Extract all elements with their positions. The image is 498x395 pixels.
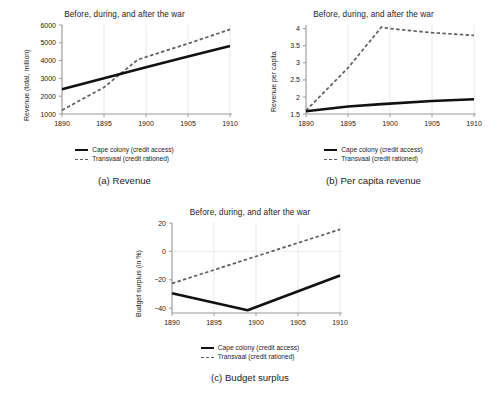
svg-text:4000: 4000: [40, 57, 56, 64]
legend-item-cape-b: Cape colony (credit access): [324, 146, 422, 155]
caption-a: (a) Revenue: [0, 175, 249, 186]
svg-text:0: 0: [162, 248, 166, 255]
svg-text:1905: 1905: [290, 319, 306, 326]
panel-per-capita-revenue: Before, during, and after the war Revenu…: [249, 0, 498, 196]
panel-revenue: Before, during, and after the war Revenu…: [0, 0, 249, 196]
y-tick-labels-a: 6000 5000 4000 3000 2000 1000: [40, 22, 56, 118]
gridlines-a: [62, 25, 230, 114]
legend-item-transvaal-c: Transvaal (credit rationed): [201, 353, 299, 362]
svg-text:1890: 1890: [298, 120, 314, 127]
svg-text:4: 4: [296, 25, 300, 32]
legend-label-transvaal: Transvaal (credit rationed): [218, 353, 295, 362]
legend-c: Cape colony (credit access) Transvaal (c…: [110, 344, 390, 362]
svg-text:1900: 1900: [382, 120, 398, 127]
legend-item-cape-a: Cape colony (credit access): [75, 146, 173, 155]
svg-text:2000: 2000: [40, 93, 56, 100]
svg-text:5000: 5000: [40, 39, 56, 46]
legend-a: Cape colony (credit access) Transvaal (c…: [0, 146, 249, 164]
legend-b: Cape colony (credit access) Transvaal (c…: [249, 146, 498, 164]
dashed-line-swatch-icon: [75, 159, 88, 160]
svg-text:1905: 1905: [180, 120, 196, 127]
svg-text:1895: 1895: [340, 120, 356, 127]
x-tick-labels-a: 1890 1895 1900 1905 1910: [54, 120, 238, 127]
legend-label-transvaal: Transvaal (credit rationed): [92, 155, 169, 164]
svg-text:1895: 1895: [206, 319, 222, 326]
svg-text:1890: 1890: [164, 319, 180, 326]
svg-text:1000: 1000: [40, 111, 56, 118]
figure-page: { "figure": { "panels": [ { "id": "a", "…: [0, 0, 498, 395]
solid-line-swatch-icon: [75, 149, 88, 151]
solid-line-swatch-icon: [201, 347, 214, 349]
x-tick-labels-c: 1890 1895 1900 1905 1910: [164, 319, 348, 326]
svg-text:3000: 3000: [40, 75, 56, 82]
legend-label-transvaal: Transvaal (credit rationed): [341, 155, 418, 164]
plot-area-c: 20 0 −20 −40 1890 1895 1900 1905 1910: [110, 196, 390, 341]
legend-label-cape: Cape colony (credit access): [92, 146, 173, 155]
legend-label-cape: Cape colony (credit access): [218, 344, 299, 353]
legend-item-transvaal-b: Transvaal (credit rationed): [324, 155, 422, 164]
legend-item-cape-c: Cape colony (credit access): [201, 344, 299, 353]
y-tick-labels-c: 20 0 −20 −40: [154, 220, 166, 312]
panel-budget-surplus: Before, during, and after the war Budget…: [110, 196, 390, 395]
svg-text:3: 3: [296, 59, 300, 66]
plot-area-a: 6000 5000 4000 3000 2000 1000 1890 1895 …: [0, 0, 249, 140]
legend-item-transvaal-a: Transvaal (credit rationed): [75, 155, 173, 164]
svg-text:2: 2: [296, 94, 300, 101]
svg-text:1910: 1910: [332, 319, 348, 326]
svg-text:1910: 1910: [222, 120, 238, 127]
svg-text:2.5: 2.5: [290, 76, 300, 83]
plot-area-b: 4 3.5 3 2.5 2 1.5 1890 1895 1900 1905 19…: [249, 0, 498, 140]
solid-line-swatch-icon: [324, 149, 337, 151]
svg-text:20: 20: [158, 220, 166, 227]
svg-text:6000: 6000: [40, 22, 56, 29]
svg-text:3.5: 3.5: [290, 42, 300, 49]
svg-text:1900: 1900: [138, 120, 154, 127]
svg-text:1905: 1905: [424, 120, 440, 127]
svg-text:−40: −40: [154, 305, 166, 312]
dashed-line-swatch-icon: [201, 357, 214, 358]
legend-label-cape: Cape colony (credit access): [341, 146, 422, 155]
svg-text:1910: 1910: [466, 120, 482, 127]
caption-c: (c) Budget surplus: [110, 372, 390, 383]
svg-text:1895: 1895: [96, 120, 112, 127]
y-tick-labels-b: 4 3.5 3 2.5 2 1.5: [290, 25, 300, 117]
svg-text:1.5: 1.5: [290, 111, 300, 118]
x-tick-labels-b: 1890 1895 1900 1905 1910: [298, 120, 482, 127]
caption-b: (b) Per capita revenue: [249, 175, 498, 186]
svg-text:1890: 1890: [54, 120, 70, 127]
svg-text:1900: 1900: [248, 319, 264, 326]
dashed-line-swatch-icon: [324, 159, 337, 160]
svg-text:−20: −20: [154, 276, 166, 283]
